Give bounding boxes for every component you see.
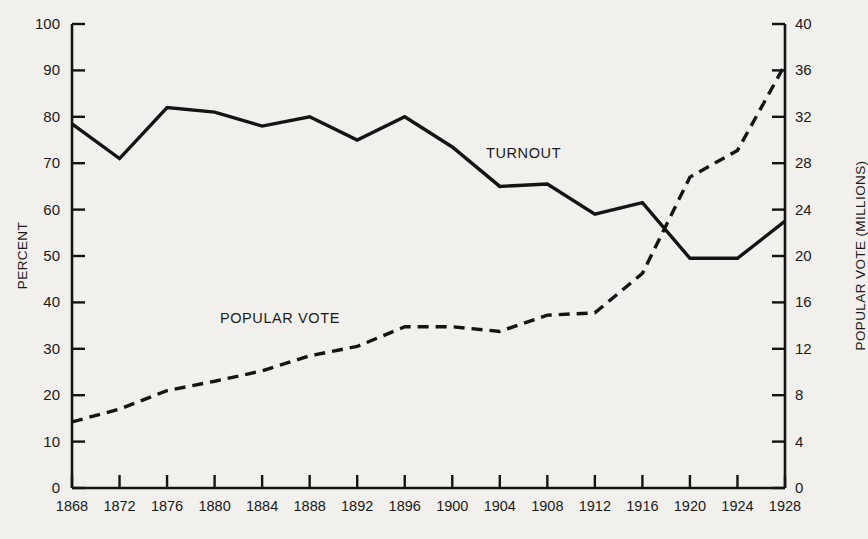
tick-marks: [72, 24, 785, 488]
series-line-turnout: [72, 108, 785, 259]
axis-frame: [72, 24, 785, 488]
